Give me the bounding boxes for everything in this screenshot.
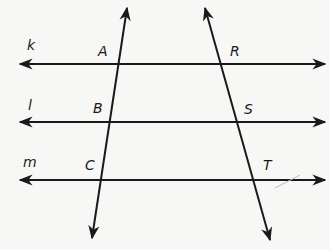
point-label-s: S	[244, 102, 253, 116]
line-label-l: l	[28, 98, 32, 112]
point-label-r: R	[230, 44, 240, 58]
point-label-a: A	[98, 44, 108, 58]
pencil-mark	[275, 175, 300, 188]
point-label-t: T	[263, 158, 272, 172]
point-label-b: B	[93, 101, 103, 115]
point-label-c: C	[85, 158, 95, 172]
diagram-canvas	[0, 0, 330, 250]
line-label-k: k	[27, 38, 35, 52]
line-label-m: m	[23, 155, 37, 169]
